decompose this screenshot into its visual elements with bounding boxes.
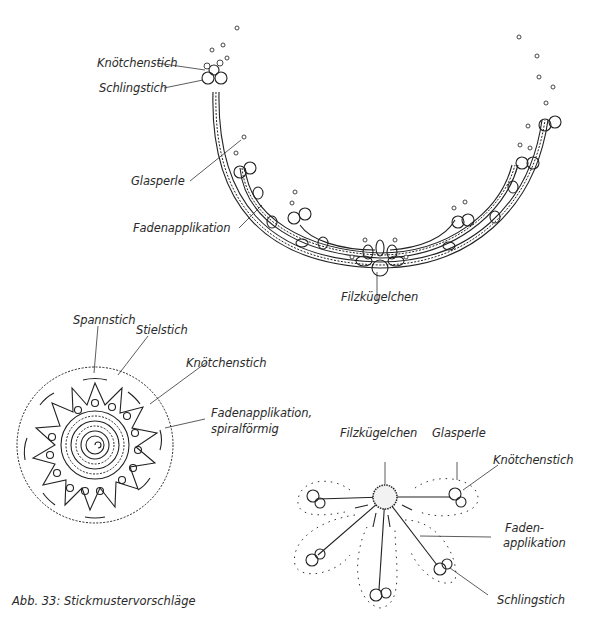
label-schlingstich-top: Schlingstich — [99, 82, 167, 95]
label-fadenapplikation-round-1: Fadenapplikation, — [211, 407, 312, 420]
label-fadenapplikation-top: Fadenapplikation — [133, 222, 231, 235]
label-faden-2: applikation — [503, 537, 566, 550]
label-knoetchenstich-flower: Knötchenstich — [493, 454, 573, 467]
label-glasperle-flower: Glasperle — [432, 427, 486, 440]
label-fadenapplikation-round-2: spiralförmig — [211, 423, 279, 436]
label-knoetchenstich-round: Knötchenstich — [186, 357, 266, 370]
label-filzkuegelchen-flower: Filzkügelchen — [340, 427, 417, 440]
label-schlingstich-flower: Schlingstich — [497, 594, 565, 607]
arc-motif — [157, 26, 561, 300]
round-motif — [17, 326, 207, 523]
label-knoetchenstich-top: Knötchenstich — [97, 57, 177, 70]
label-stielstich: Stielstich — [136, 324, 188, 337]
figure-caption: Abb. 33: Stickmustervorschläge — [12, 594, 196, 608]
label-faden-1: Faden- — [505, 522, 544, 535]
label-filzkuegelchen-top: Filzkügelchen — [341, 291, 418, 304]
flower-motif — [294, 462, 498, 608]
label-spannstich: Spannstich — [73, 314, 136, 327]
label-glasperle-top: Glasperle — [131, 175, 185, 188]
